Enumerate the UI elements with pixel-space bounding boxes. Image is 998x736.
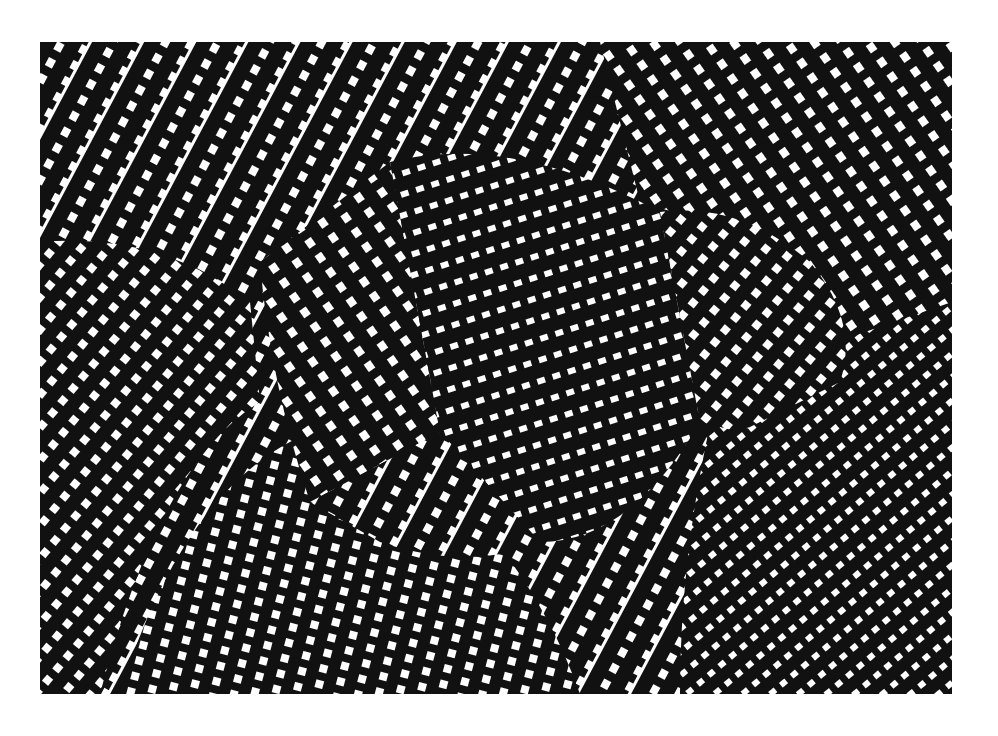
op-art-svg: [40, 42, 952, 694]
op-art-canvas: Black and white op-art pattern of tilted…: [40, 42, 952, 694]
